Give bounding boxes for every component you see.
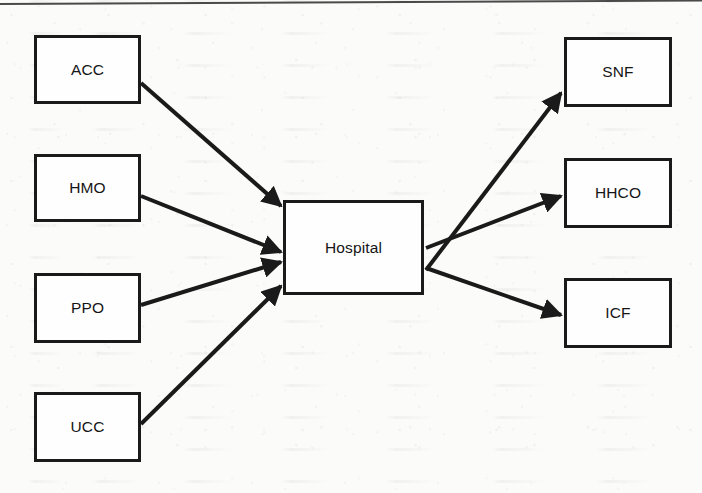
node-icf[interactable]: ICF xyxy=(564,278,672,348)
node-label-ppo: PPO xyxy=(71,300,104,316)
node-acc[interactable]: ACC xyxy=(34,35,141,104)
node-label-hmo: HMO xyxy=(69,180,106,196)
node-snf[interactable]: SNF xyxy=(564,37,672,107)
node-label-snf: SNF xyxy=(602,64,633,80)
edge-ppo-to-hospital xyxy=(141,262,281,305)
node-ucc[interactable]: UCC xyxy=(34,392,141,462)
node-label-hospital: Hospital xyxy=(325,240,382,256)
node-label-hhco: HHCO xyxy=(595,185,641,201)
edge-hospital-to-icf xyxy=(426,268,561,315)
figure-canvas: ACCHMOPPOUCCHospitalSNFHHCOICF xyxy=(0,0,702,493)
node-label-acc: ACC xyxy=(71,62,104,78)
edge-acc-to-hospital xyxy=(141,83,281,206)
edge-hospital-to-hhco xyxy=(426,196,561,248)
node-ppo[interactable]: PPO xyxy=(34,273,141,343)
node-label-ucc: UCC xyxy=(70,419,104,435)
edge-hmo-to-hospital xyxy=(141,196,281,252)
edge-ucc-to-hospital xyxy=(141,286,281,424)
node-hmo[interactable]: HMO xyxy=(34,154,141,222)
node-hhco[interactable]: HHCO xyxy=(564,158,672,228)
edge-hospital-to-snf xyxy=(426,93,561,270)
node-hospital[interactable]: Hospital xyxy=(283,200,424,295)
node-label-icf: ICF xyxy=(605,305,630,321)
